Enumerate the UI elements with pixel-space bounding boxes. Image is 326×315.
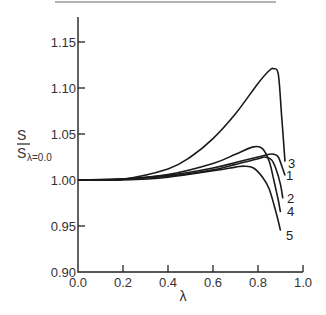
x-tick-label: 0.2: [114, 275, 132, 290]
axes: [78, 17, 303, 272]
curve-label-1: 1: [286, 168, 293, 183]
x-axis-label: λ: [180, 288, 187, 304]
y-axis-label: S S λ=0.0: [17, 127, 52, 163]
y-tick-label: 1.00: [51, 173, 76, 188]
y-axis-subscript: λ=0.0: [27, 152, 52, 163]
curves: [78, 68, 285, 230]
x-tick-label: 0.4: [159, 275, 177, 290]
curve-labels: 31245: [286, 156, 295, 243]
axis-lines: [78, 17, 303, 272]
curve-label-5: 5: [286, 228, 293, 243]
y-tick-label: 0.90: [51, 265, 76, 280]
x-tick-label: 1.0: [294, 275, 312, 290]
y-tick-label: 1.05: [51, 127, 76, 142]
y-tick-label: 1.15: [51, 35, 76, 50]
y-axis-denominator: S: [17, 145, 26, 161]
line-chart: 0.00.20.40.60.81.00.900.951.001.051.101.…: [0, 0, 326, 315]
y-tick-label: 0.95: [51, 219, 76, 234]
y-tick-label: 1.10: [51, 81, 76, 96]
curve-label-4: 4: [287, 204, 294, 219]
y-axis-numerator: S: [17, 127, 26, 143]
x-tick-label: 0.8: [249, 275, 267, 290]
curve-5: [78, 166, 281, 230]
curve-4: [78, 146, 281, 212]
x-tick-label: 0.6: [204, 275, 222, 290]
curve-3: [78, 68, 285, 180]
